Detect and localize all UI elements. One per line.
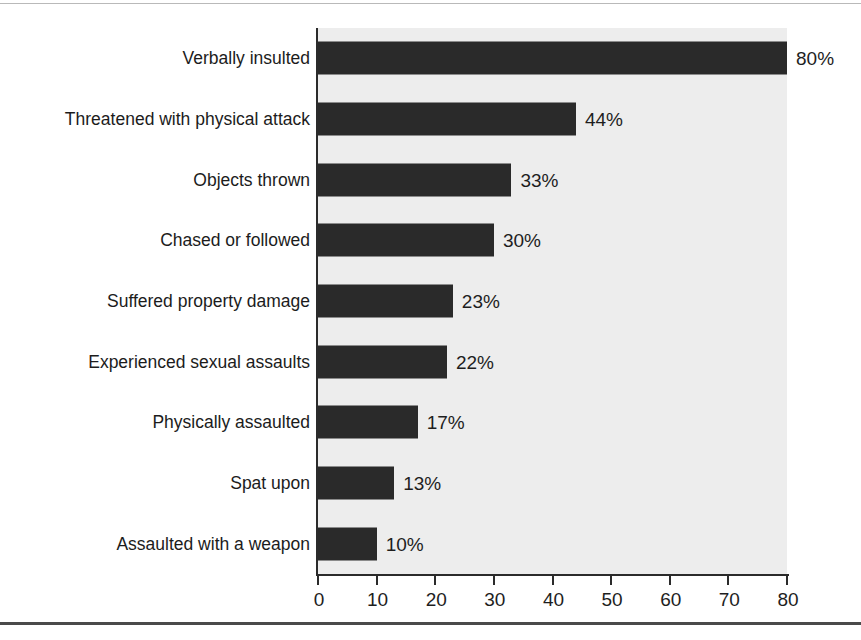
page-rule-bottom — [0, 622, 861, 625]
category-label: Assaulted with a weapon — [116, 533, 310, 554]
bar — [318, 163, 511, 196]
category-label: Objects thrown — [193, 169, 310, 190]
bar-value-label: 17% — [427, 411, 465, 434]
bar-row: Experienced sexual assaults22% — [0, 331, 861, 392]
x-tick-mark — [376, 576, 378, 585]
bar — [318, 102, 576, 135]
bar-value-label: 10% — [386, 532, 424, 555]
bar — [318, 224, 494, 257]
x-tick-label: 20 — [406, 588, 466, 611]
bar-value-label: 80% — [796, 47, 834, 70]
x-tick-label: 10 — [348, 588, 408, 611]
bar — [318, 42, 787, 75]
x-tick-label: 0 — [289, 588, 349, 611]
x-tick-mark — [493, 576, 495, 585]
bar — [318, 527, 377, 560]
bar-row: Suffered property damage23% — [0, 271, 861, 332]
bar-row: Threatened with physical attack44% — [0, 89, 861, 150]
category-label: Threatened with physical attack — [65, 108, 310, 129]
x-tick-mark — [317, 576, 319, 585]
x-tick-mark — [610, 576, 612, 585]
bar-row: Chased or followed30% — [0, 210, 861, 271]
bar-value-label: 22% — [456, 350, 494, 373]
category-label: Physically assaulted — [152, 412, 310, 433]
bar-row: Objects thrown33% — [0, 149, 861, 210]
bar — [318, 466, 394, 499]
bar-value-label: 44% — [585, 107, 623, 130]
x-tick-label: 70 — [699, 588, 759, 611]
x-tick-label: 50 — [582, 588, 642, 611]
bar-value-label: 23% — [462, 289, 500, 312]
bar-value-label: 30% — [503, 229, 541, 252]
bar — [318, 284, 453, 317]
page-rule-top — [0, 3, 861, 4]
bar-value-label: 13% — [403, 471, 441, 494]
x-tick-mark — [727, 576, 729, 585]
bar-row: Verbally insulted80% — [0, 28, 861, 89]
x-tick-mark — [552, 576, 554, 585]
bar — [318, 345, 447, 378]
x-tick-label: 30 — [465, 588, 525, 611]
bar-row: Assaulted with a weapon10% — [0, 513, 861, 574]
category-label: Experienced sexual assaults — [88, 351, 310, 372]
category-label: Verbally insulted — [183, 48, 310, 69]
bar-value-label: 33% — [520, 168, 558, 191]
category-label: Spat upon — [230, 472, 310, 493]
bar-row: Physically assaulted17% — [0, 392, 861, 453]
x-tick-mark — [434, 576, 436, 585]
x-tick-mark — [786, 576, 788, 585]
category-label: Suffered property damage — [107, 290, 310, 311]
x-tick-label: 80 — [758, 588, 818, 611]
x-tick-mark — [669, 576, 671, 585]
category-label: Chased or followed — [160, 230, 310, 251]
bar-row: Spat upon13% — [0, 453, 861, 514]
x-tick-label: 40 — [524, 588, 584, 611]
chart-figure: 01020304050607080 Verbally insulted80%Th… — [0, 0, 861, 640]
bar — [318, 406, 418, 439]
x-tick-label: 60 — [641, 588, 701, 611]
